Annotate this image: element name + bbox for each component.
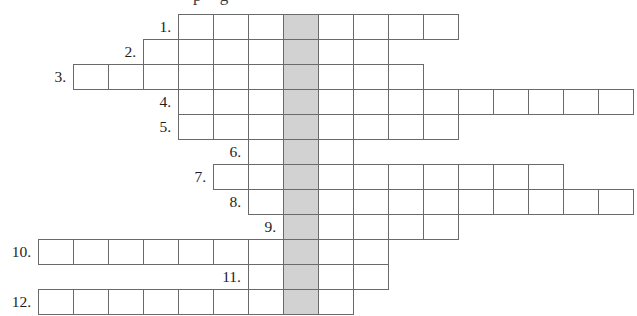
key-column-cell[interactable]	[283, 39, 319, 65]
grid-cell[interactable]	[528, 89, 564, 115]
grid-cell[interactable]	[38, 289, 74, 315]
key-column-cell[interactable]	[283, 139, 319, 165]
grid-cell[interactable]	[248, 89, 284, 115]
grid-cell[interactable]	[318, 64, 354, 90]
grid-cell[interactable]	[108, 64, 144, 90]
key-column-cell[interactable]	[283, 264, 319, 290]
grid-cell[interactable]	[213, 239, 249, 265]
grid-cell[interactable]	[458, 164, 494, 190]
grid-cell[interactable]	[213, 114, 249, 140]
grid-cell[interactable]	[213, 164, 249, 190]
grid-cell[interactable]	[143, 289, 179, 315]
grid-cell[interactable]	[318, 239, 354, 265]
grid-cell[interactable]	[353, 64, 389, 90]
grid-cell[interactable]	[528, 189, 564, 215]
grid-cell[interactable]	[318, 289, 354, 315]
grid-cell[interactable]	[178, 114, 214, 140]
grid-cell[interactable]	[423, 114, 459, 140]
grid-cell[interactable]	[388, 189, 424, 215]
grid-cell[interactable]	[493, 189, 529, 215]
grid-cell[interactable]	[353, 114, 389, 140]
grid-cell[interactable]	[108, 289, 144, 315]
grid-cell[interactable]	[388, 64, 424, 90]
key-column-cell[interactable]	[283, 189, 319, 215]
grid-cell[interactable]	[563, 189, 599, 215]
grid-cell[interactable]	[248, 164, 284, 190]
grid-cell[interactable]	[388, 164, 424, 190]
grid-cell[interactable]	[178, 289, 214, 315]
grid-cell[interactable]	[353, 189, 389, 215]
grid-cell[interactable]	[213, 14, 249, 40]
grid-cell[interactable]	[73, 64, 109, 90]
grid-cell[interactable]	[318, 164, 354, 190]
key-column-cell[interactable]	[283, 164, 319, 190]
key-column-cell[interactable]	[283, 214, 319, 240]
key-column-cell[interactable]	[283, 89, 319, 115]
grid-cell[interactable]	[248, 189, 284, 215]
grid-cell[interactable]	[73, 289, 109, 315]
grid-cell[interactable]	[143, 239, 179, 265]
grid-cell[interactable]	[458, 89, 494, 115]
grid-cell[interactable]	[318, 139, 354, 165]
grid-cell[interactable]	[178, 89, 214, 115]
grid-cell[interactable]	[143, 64, 179, 90]
grid-cell[interactable]	[388, 89, 424, 115]
grid-cell[interactable]	[493, 164, 529, 190]
grid-cell[interactable]	[248, 264, 284, 290]
grid-cell[interactable]	[423, 189, 459, 215]
grid-cell[interactable]	[423, 164, 459, 190]
grid-cell[interactable]	[388, 114, 424, 140]
grid-cell[interactable]	[353, 264, 389, 290]
key-column-cell[interactable]	[283, 239, 319, 265]
grid-cell[interactable]	[248, 139, 284, 165]
grid-cell[interactable]	[598, 189, 634, 215]
grid-cell[interactable]	[248, 39, 284, 65]
grid-cell[interactable]	[73, 239, 109, 265]
grid-cell[interactable]	[353, 214, 389, 240]
grid-cell[interactable]	[213, 289, 249, 315]
grid-cell[interactable]	[248, 64, 284, 90]
grid-cell[interactable]	[143, 39, 179, 65]
grid-cell[interactable]	[248, 289, 284, 315]
grid-cell[interactable]	[248, 239, 284, 265]
grid-cell[interactable]	[353, 164, 389, 190]
grid-cell[interactable]	[423, 214, 459, 240]
grid-cell[interactable]	[493, 89, 529, 115]
grid-cell[interactable]	[318, 189, 354, 215]
grid-cell[interactable]	[318, 39, 354, 65]
grid-cell[interactable]	[598, 89, 634, 115]
grid-cell[interactable]	[563, 89, 599, 115]
key-column-cell[interactable]	[283, 289, 319, 315]
grid-cell[interactable]	[318, 89, 354, 115]
grid-cell[interactable]	[38, 239, 74, 265]
cropped-text-artifact: p g	[193, 0, 235, 6]
grid-cell[interactable]	[213, 64, 249, 90]
grid-cell[interactable]	[423, 89, 459, 115]
grid-cell[interactable]	[178, 64, 214, 90]
grid-cell[interactable]	[528, 164, 564, 190]
grid-cell[interactable]	[178, 239, 214, 265]
key-column-cell[interactable]	[283, 114, 319, 140]
grid-cell[interactable]	[388, 214, 424, 240]
grid-cell[interactable]	[353, 89, 389, 115]
grid-cell[interactable]	[423, 14, 459, 40]
grid-cell[interactable]	[248, 114, 284, 140]
grid-cell[interactable]	[458, 189, 494, 215]
grid-cell[interactable]	[388, 14, 424, 40]
row-label-8: 8.	[197, 189, 241, 214]
grid-cell[interactable]	[178, 39, 214, 65]
grid-cell[interactable]	[248, 14, 284, 40]
key-column-cell[interactable]	[283, 14, 319, 40]
key-column-cell[interactable]	[283, 64, 319, 90]
grid-cell[interactable]	[318, 14, 354, 40]
grid-cell[interactable]	[178, 14, 214, 40]
grid-cell[interactable]	[353, 239, 389, 265]
grid-cell[interactable]	[213, 39, 249, 65]
grid-cell[interactable]	[213, 89, 249, 115]
grid-cell[interactable]	[318, 214, 354, 240]
grid-cell[interactable]	[353, 39, 389, 65]
grid-cell[interactable]	[318, 264, 354, 290]
grid-cell[interactable]	[353, 14, 389, 40]
grid-cell[interactable]	[318, 114, 354, 140]
grid-cell[interactable]	[108, 239, 144, 265]
